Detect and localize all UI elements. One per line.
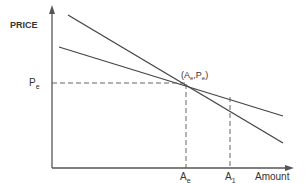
shallow-line — [59, 47, 283, 116]
a1-tick-label: A1 — [225, 171, 236, 183]
x-axis-label: Amount — [255, 171, 290, 182]
ae-tick-label: Ae — [180, 171, 191, 183]
pe-label: Pe — [29, 77, 40, 90]
y-axis-label: PRICE — [10, 20, 38, 30]
equilibrium-point-label: (Ae,Pe) — [181, 70, 208, 81]
supply-demand-diagram: PRICE Pe (Ae,Pe) Ae A1 Amount — [0, 0, 307, 183]
steep-line — [68, 15, 283, 143]
y-axis-arrow-icon — [49, 5, 55, 14]
